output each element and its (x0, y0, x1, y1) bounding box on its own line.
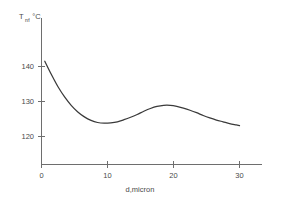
x-tick-label-20: 20 (169, 171, 177, 180)
y-axis-title-symbol: T (19, 12, 24, 21)
chart-figure: 140 130 120 0 10 20 30 T m , °C d,micron (0, 0, 281, 198)
y-tick-label-130: 130 (21, 97, 34, 106)
line-chart-plot: 140 130 120 0 10 20 30 T m , °C d,micron (0, 0, 281, 198)
data-series-line (45, 61, 240, 125)
y-tick-label-120: 120 (21, 132, 34, 141)
x-tick-label-0: 0 (39, 171, 43, 180)
y-tick-label-140: 140 (21, 62, 34, 71)
y-axis-title-units: , °C (28, 12, 41, 21)
x-tick-label-30: 30 (235, 171, 243, 180)
x-tick-label-10: 10 (103, 171, 111, 180)
y-axis-title: T m , °C (19, 12, 41, 23)
x-axis-title: d,micron (126, 185, 155, 194)
